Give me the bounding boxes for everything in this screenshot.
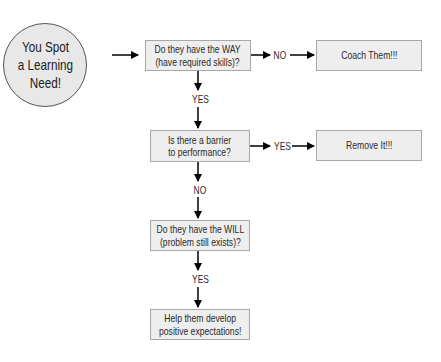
barrier-line-1: Is there a barrier [168,134,231,147]
edge-label-barrier-remove: YES [274,140,291,152]
will-line-1: Do they have the WILL [156,223,244,236]
way-line-1: Do they have the WAY [155,43,241,56]
barrier-line-2: to performance? [168,146,231,159]
coach-node: Coach Them!!! [316,40,422,71]
coach-line-1: Coach Them!!! [341,49,397,62]
edge-label-way-coach: NO [274,49,287,61]
start-line-3: Need! [17,74,72,92]
start-node: You Spot a Learning Need! [3,23,87,107]
start-line-1: You Spot [17,38,72,56]
help-line-1: Help them develop [159,312,241,325]
way-node: Do they have the WAY (have required skil… [145,40,251,71]
edge-label-way-barrier: YES [192,93,209,105]
remove-node: Remove It!!! [316,130,422,161]
edge-label-barrier-will: NO [194,184,207,196]
way-line-2: (have required skills)? [155,56,241,69]
edge-label-will-help: YES [192,273,209,285]
will-node: Do they have the WILL (problem still exi… [150,220,250,251]
help-node: Help them develop positive expectations! [150,309,250,340]
start-line-2: a Learning [17,56,72,74]
barrier-node: Is there a barrier to performance? [150,130,250,162]
will-line-2: (problem still exists)? [156,236,244,249]
help-line-2: positive expectations! [159,325,241,338]
remove-line-1: Remove It!!! [346,139,392,152]
